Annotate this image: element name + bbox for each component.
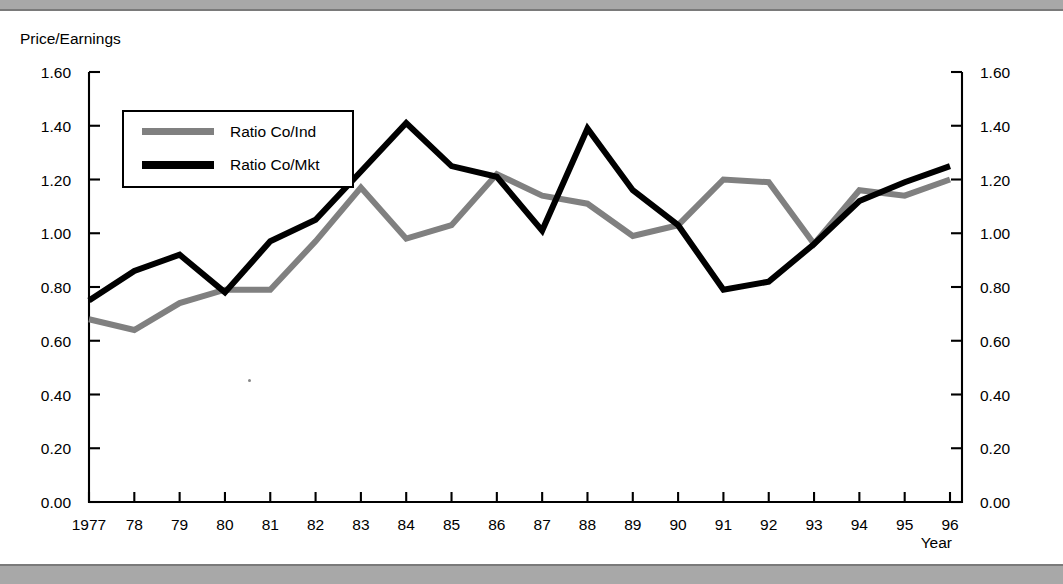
y-tick-label-right: 1.60 [980,64,1011,81]
x-tick-label: 95 [896,516,913,533]
legend-label-ratio-co-mkt: Ratio Co/Mkt [230,156,320,174]
y-tick-label: 0.40 [41,387,72,404]
y-tick-label-right: 0.20 [980,440,1011,457]
x-tick-label: 96 [941,516,958,533]
y-tick-label: 0.20 [41,440,72,457]
y-tick-label-right: 1.40 [980,118,1011,135]
x-tick-label: 88 [579,516,596,533]
x-tick-label: 90 [669,516,687,533]
y-tick-label-right: 0.00 [980,494,1011,511]
y-tick-label-right: 0.40 [980,387,1011,404]
y-tick-label-right: 1.20 [980,172,1011,189]
x-tick-label: 1977 [72,516,106,533]
chart-legend: Ratio Co/Ind Ratio Co/Mkt [122,110,354,188]
x-tick-label: 83 [352,516,369,533]
y-tick-label-right: 0.60 [980,333,1011,350]
screenshot-page: Price/Earnings Year 1.601.601.401.401.20… [0,0,1063,584]
x-tick-label: 81 [262,516,279,533]
chart-plot-area: 1.601.601.401.401.201.201.001.000.800.80… [0,11,1063,566]
y-tick-label: 0.60 [41,333,72,350]
y-tick-label: 1.20 [41,172,72,189]
x-tick-label: 87 [534,516,551,533]
x-tick-label: 78 [126,516,143,533]
x-tick-label: 93 [805,516,822,533]
y-tick-label: 1.60 [41,64,72,81]
legend-entry-ratio-co-mkt: Ratio Co/Mkt [124,145,352,184]
x-tick-label: 92 [760,516,777,533]
y-tick-label: 0.00 [41,494,72,511]
x-tick-label: 79 [171,516,188,533]
y-tick-label: 1.00 [41,225,72,242]
legend-label-ratio-co-ind: Ratio Co/Ind [230,123,316,141]
window-bottom-band [0,566,1063,584]
y-tick-label-right: 0.80 [980,279,1011,296]
x-tick-label: 94 [851,516,869,533]
legend-swatch-ratio-co-ind [142,128,214,135]
x-tick-label: 91 [715,516,732,533]
x-tick-label: 80 [216,516,234,533]
series-line-ratio-co-ind [89,174,950,330]
price-earnings-chart: Price/Earnings Year 1.601.601.401.401.20… [0,11,1063,566]
scan-artifact-speck [248,379,251,382]
y-tick-label: 0.80 [41,279,72,296]
x-tick-label: 86 [488,516,505,533]
x-tick-label: 85 [443,516,460,533]
y-tick-label-right: 1.00 [980,225,1011,242]
y-tick-label: 1.40 [41,118,72,135]
x-tick-label: 89 [624,516,641,533]
x-tick-label: 82 [307,516,324,533]
x-tick-label: 84 [398,516,416,533]
legend-swatch-ratio-co-mkt [142,161,214,169]
